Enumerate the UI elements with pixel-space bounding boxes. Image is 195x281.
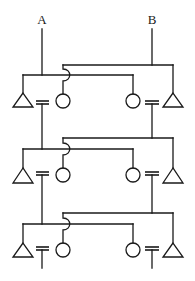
right-circle-symbol — [126, 243, 140, 257]
crossover-hop-wire — [63, 213, 70, 243]
terminal-a-label: A — [37, 12, 47, 27]
left-triangle-symbol — [13, 243, 33, 257]
left-circle-symbol — [56, 168, 70, 182]
right-triangle-symbol — [163, 243, 183, 257]
terminal-b-label: B — [148, 12, 157, 27]
left-circle-symbol — [56, 94, 70, 108]
left-triangle-symbol — [13, 168, 33, 183]
crossover-hop-wire — [63, 138, 70, 168]
right-triangle-symbol — [163, 93, 183, 107]
left-circle-symbol — [56, 243, 70, 257]
stages-group — [13, 29, 183, 268]
right-triangle-symbol — [163, 168, 183, 183]
crossover-hop-wire — [63, 65, 70, 94]
left-triangle-symbol — [13, 93, 33, 107]
ladder-diagram: A B — [0, 0, 195, 281]
right-circle-symbol — [126, 94, 140, 108]
right-circle-symbol — [126, 168, 140, 182]
